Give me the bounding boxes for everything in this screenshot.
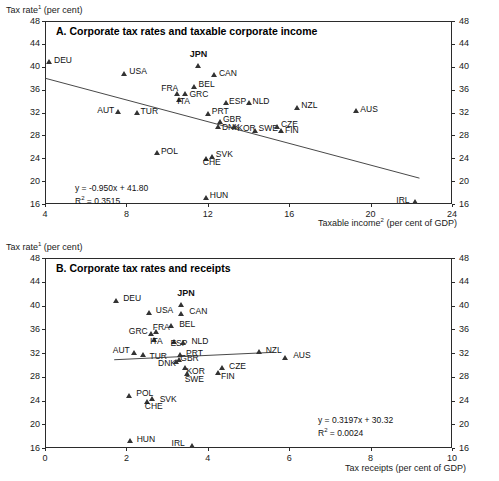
panel-a-equation: y = -0.950x + 41.80 R2 = 0.3515 [75, 183, 148, 206]
x-tick-mark [289, 204, 290, 207]
x-tick-mark [289, 448, 290, 451]
y-tick-label-right: 28 [459, 131, 484, 140]
y-tick-label: 48 [15, 254, 40, 263]
x-tick-label: 8 [111, 210, 141, 219]
x-tick-mark [208, 448, 209, 451]
y-tick-mark [452, 158, 455, 159]
y-tick-label-right: 44 [459, 39, 484, 48]
y-tick-label: 44 [15, 39, 40, 48]
y-tick-label-right: 44 [459, 277, 484, 286]
y-tick-label: 28 [15, 372, 40, 381]
y-tick-mark [452, 113, 455, 114]
y-tick-label: 36 [15, 325, 40, 334]
y-tick-mark [452, 67, 455, 68]
y-tick-label: 24 [15, 154, 40, 163]
y-tick-label: 16 [15, 200, 40, 209]
y-tick-label: 20 [15, 177, 40, 186]
y-tick-label: 32 [15, 349, 40, 358]
x-tick-label: 2 [111, 454, 141, 463]
x-tick-mark [45, 448, 46, 451]
y-tick-label-right: 48 [459, 17, 484, 26]
panel-b-y-axis-title: Tax rate1 (per cent) [6, 241, 82, 252]
y-tick-mark [452, 401, 455, 402]
y-tick-label-right: 48 [459, 254, 484, 263]
y-tick-label: 24 [15, 396, 40, 405]
y-tick-mark [452, 90, 455, 91]
x-tick-mark [208, 204, 209, 207]
y-tick-mark [452, 282, 455, 283]
y-tick-label-right: 36 [459, 325, 484, 334]
y-tick-label: 16 [15, 444, 40, 453]
y-tick-label: 48 [15, 17, 40, 26]
y-tick-mark [452, 21, 455, 22]
x-tick-label: 0 [30, 454, 60, 463]
y-tick-label: 36 [15, 85, 40, 94]
y-tick-label-right: 40 [459, 301, 484, 310]
panel-a-y-axis-title: Tax rate1 (per cent) [6, 4, 82, 15]
y-tick-mark [452, 181, 455, 182]
x-tick-mark [452, 204, 453, 207]
y-tick-mark [452, 44, 455, 45]
x-tick-label: 4 [30, 210, 60, 219]
x-tick-label: 12 [193, 210, 223, 219]
x-tick-mark [371, 204, 372, 207]
y-tick-label-right: 16 [459, 200, 484, 209]
x-tick-label: 4 [193, 454, 223, 463]
x-tick-mark [45, 204, 46, 207]
panel-a-x-axis-title: Taxable income2 (per cent of GDP) [318, 217, 457, 228]
panel-b-x-axis-title: Tax receipts (per cent of GDP) [345, 462, 466, 473]
y-tick-label: 40 [15, 62, 40, 71]
x-tick-label: 6 [274, 454, 304, 463]
y-tick-mark [452, 424, 455, 425]
y-tick-label-right: 32 [459, 349, 484, 358]
y-tick-label: 28 [15, 131, 40, 140]
y-tick-label-right: 28 [459, 372, 484, 381]
x-tick-mark [452, 448, 453, 451]
y-tick-label-right: 36 [459, 85, 484, 94]
y-tick-mark [452, 353, 455, 354]
panel-a-trendline [45, 21, 452, 204]
y-tick-label-right: 20 [459, 420, 484, 429]
y-tick-label: 40 [15, 301, 40, 310]
y-tick-label-right: 24 [459, 154, 484, 163]
x-tick-label: 16 [274, 210, 304, 219]
y-tick-label-right: 20 [459, 177, 484, 186]
y-tick-mark [452, 135, 455, 136]
y-tick-label-right: 40 [459, 62, 484, 71]
y-tick-mark [452, 329, 455, 330]
x-tick-mark [126, 448, 127, 451]
y-tick-label-right: 16 [459, 444, 484, 453]
y-tick-label-right: 24 [459, 396, 484, 405]
y-tick-label-right: 32 [459, 108, 484, 117]
panel-b-equation: y = 0.3197x + 30.32 R2 = 0.0024 [318, 415, 393, 438]
y-tick-mark [452, 377, 455, 378]
y-tick-label: 32 [15, 108, 40, 117]
y-tick-label: 44 [15, 277, 40, 286]
y-tick-label: 20 [15, 420, 40, 429]
x-tick-mark [371, 448, 372, 451]
y-tick-mark [452, 306, 455, 307]
y-tick-mark [452, 258, 455, 259]
